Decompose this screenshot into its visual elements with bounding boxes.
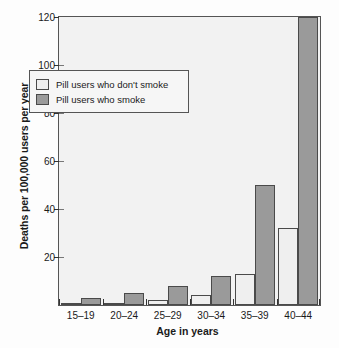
y-axis-tick-inner (59, 209, 64, 210)
y-axis-tick-label: 20 (44, 252, 55, 263)
y-axis-tick-inner (59, 161, 64, 162)
legend-item-nonsmoker: Pill users who don't smoke (36, 77, 182, 91)
x-axis-tick (319, 299, 320, 305)
y-axis-tick-inner (59, 113, 64, 114)
y-axis-tick-label: 120 (38, 12, 55, 23)
bar-nonsmoker (148, 300, 168, 305)
x-axis-category-label: 35–39 (241, 310, 269, 321)
y-axis-tick-inner (59, 257, 64, 258)
x-axis-category-label: 20–24 (110, 310, 138, 321)
legend-item-smoker: Pill users who smoke (36, 92, 182, 106)
y-axis-tick-label: 40 (44, 204, 55, 215)
x-axis-category-label: 15–19 (67, 310, 95, 321)
plot-area: 2040608010012015–1920–2425–2930–3435–394… (58, 16, 321, 306)
bar-chart-figure: Deaths per 100,000 users per year 204060… (0, 0, 339, 348)
legend-swatch-light-icon (36, 79, 49, 90)
x-axis-title: Age in years (55, 325, 320, 337)
x-axis-category-label: 40–44 (284, 310, 312, 321)
bar-smoker (168, 286, 188, 305)
bar-smoker (211, 276, 231, 305)
legend-label-nonsmoker: Pill users who don't smoke (56, 79, 168, 90)
y-axis-tick-label: 100 (38, 60, 55, 71)
bar-nonsmoker (61, 303, 81, 305)
bar-nonsmoker (191, 295, 211, 305)
bar-smoker (298, 17, 318, 305)
legend-swatch-dark-icon (36, 94, 49, 105)
plot-inner: 2040608010012015–1920–2425–2930–3435–394… (59, 17, 320, 305)
bar-nonsmoker (235, 274, 255, 305)
chart-legend: Pill users who don't smoke Pill users wh… (29, 70, 189, 113)
y-axis-tick-inner (59, 65, 64, 66)
legend-label-smoker: Pill users who smoke (56, 94, 145, 105)
bar-nonsmoker (104, 303, 124, 305)
bar-smoker (255, 185, 275, 305)
bar-smoker (81, 298, 101, 305)
x-axis-category-label: 25–29 (154, 310, 182, 321)
bar-smoker (124, 293, 144, 305)
y-axis-tick-label: 60 (44, 156, 55, 167)
x-axis-category-label: 30–34 (197, 310, 225, 321)
bar-nonsmoker (278, 228, 298, 305)
